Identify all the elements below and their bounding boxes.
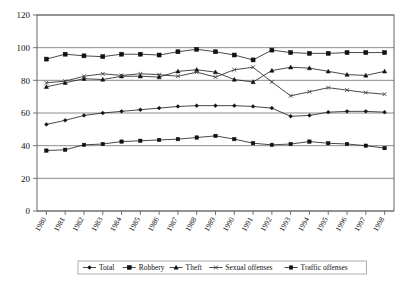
x-tick-label-1991: 1991 <box>240 215 255 233</box>
data-point-0-8 <box>195 104 199 108</box>
data-point-0-1 <box>63 118 67 122</box>
x-tick-label-1983: 1983 <box>89 215 104 233</box>
legend-label-0: Total <box>99 263 114 272</box>
x-tick-label-1993: 1993 <box>277 215 292 233</box>
legend-item-theft[interactable]: Theft <box>170 263 203 272</box>
data-point-4-12 <box>270 143 273 146</box>
legend-marker-1 <box>127 266 131 270</box>
data-point-4-14 <box>308 140 311 143</box>
data-point-2-18 <box>383 69 387 73</box>
data-point-0-0 <box>44 123 48 127</box>
legend-label-2: Theft <box>186 263 203 272</box>
legend-item-traffic-offenses[interactable]: Traffic offenses <box>285 263 348 272</box>
data-point-0-5 <box>138 108 142 112</box>
series-line-4 <box>46 136 384 151</box>
data-point-4-5 <box>139 139 142 142</box>
data-point-1-6 <box>157 53 161 57</box>
data-point-0-12 <box>270 106 274 110</box>
data-point-0-11 <box>251 105 255 109</box>
x-tick-label-1984: 1984 <box>108 215 123 233</box>
y-tick-label-0: 0 <box>26 206 31 216</box>
data-series-group <box>44 47 386 152</box>
gridlines-group <box>37 15 394 211</box>
data-point-0-10 <box>232 104 236 108</box>
legend-label-3: Sexual offenses <box>225 263 272 272</box>
data-point-4-4 <box>120 140 123 143</box>
data-point-1-13 <box>289 51 293 55</box>
y-axis-labels: 020406080100120 <box>17 10 31 216</box>
data-point-1-7 <box>176 50 180 54</box>
legend-marker-4 <box>289 266 292 269</box>
y-tick-label-60: 60 <box>21 108 31 118</box>
legend-item-robbery[interactable]: Robbery <box>123 263 165 272</box>
series-total <box>44 104 386 127</box>
chart-canvas: 020406080100120 198019811982198319841985… <box>0 0 402 287</box>
data-point-0-9 <box>214 104 218 108</box>
data-point-1-5 <box>138 52 142 56</box>
data-point-0-14 <box>308 114 312 118</box>
line-chart: 020406080100120 198019811982198319841985… <box>0 0 402 287</box>
legend-marker-0 <box>88 266 92 270</box>
data-point-0-13 <box>289 114 293 118</box>
data-point-4-18 <box>383 146 386 149</box>
data-point-4-2 <box>82 143 85 146</box>
legend-label-4: Traffic offenses <box>301 263 348 272</box>
data-point-1-11 <box>251 58 255 62</box>
data-point-4-10 <box>233 137 236 140</box>
series-line-0 <box>46 106 384 125</box>
y-tick-label-100: 100 <box>17 43 31 53</box>
x-tick-label-1985: 1985 <box>127 215 142 233</box>
y-tick-label-120: 120 <box>17 10 31 20</box>
chart-legend: TotalRobberyTheftSexual offensesTraffic … <box>78 261 366 274</box>
x-tick-label-1994: 1994 <box>296 215 311 233</box>
x-tick-label-1988: 1988 <box>183 215 198 233</box>
x-axis-ticks <box>46 211 384 215</box>
data-point-4-0 <box>45 149 48 152</box>
data-point-4-16 <box>345 142 348 145</box>
data-point-1-10 <box>232 53 236 57</box>
series-traffic-offenses <box>45 134 387 152</box>
legend-item-total[interactable]: Total <box>83 263 114 272</box>
data-point-4-7 <box>176 137 179 140</box>
x-tick-label-1989: 1989 <box>202 215 217 233</box>
x-tick-label-1995: 1995 <box>315 215 330 233</box>
data-point-1-8 <box>195 47 199 51</box>
x-tick-label-1990: 1990 <box>221 215 236 233</box>
y-tick-label-20: 20 <box>21 174 31 184</box>
data-point-4-8 <box>195 136 198 139</box>
series-robbery <box>44 47 386 62</box>
legend-label-1: Robbery <box>139 263 165 272</box>
data-point-4-11 <box>251 142 254 145</box>
data-point-4-13 <box>289 142 292 145</box>
data-point-4-15 <box>327 142 330 145</box>
y-tick-label-80: 80 <box>21 76 31 86</box>
data-point-1-3 <box>101 55 105 59</box>
data-point-4-6 <box>157 138 160 141</box>
x-tick-label-1980: 1980 <box>33 215 48 233</box>
data-point-1-18 <box>383 51 387 55</box>
data-point-0-15 <box>326 110 330 114</box>
data-point-1-4 <box>120 52 124 56</box>
data-point-4-9 <box>214 134 217 137</box>
x-tick-label-1998: 1998 <box>371 215 386 233</box>
x-tick-label-1992: 1992 <box>258 215 273 233</box>
data-point-4-1 <box>63 148 66 151</box>
x-tick-label-1982: 1982 <box>70 215 85 233</box>
data-point-1-14 <box>307 51 311 55</box>
x-tick-label-1996: 1996 <box>333 215 348 233</box>
data-point-1-0 <box>44 57 48 61</box>
data-point-0-6 <box>157 106 161 110</box>
x-tick-label-1981: 1981 <box>52 215 67 233</box>
y-tick-label-40: 40 <box>21 141 31 151</box>
x-tick-label-1986: 1986 <box>146 215 161 233</box>
data-point-1-15 <box>326 51 330 55</box>
data-point-0-3 <box>101 111 105 115</box>
data-point-1-12 <box>270 48 274 52</box>
data-point-4-17 <box>364 144 367 147</box>
data-point-1-17 <box>364 51 368 55</box>
data-point-1-9 <box>214 50 218 54</box>
x-tick-label-1987: 1987 <box>164 215 179 233</box>
data-point-1-1 <box>63 52 67 56</box>
data-point-1-2 <box>82 54 86 58</box>
legend-item-sexual-offenses[interactable]: Sexual offenses <box>209 263 272 272</box>
